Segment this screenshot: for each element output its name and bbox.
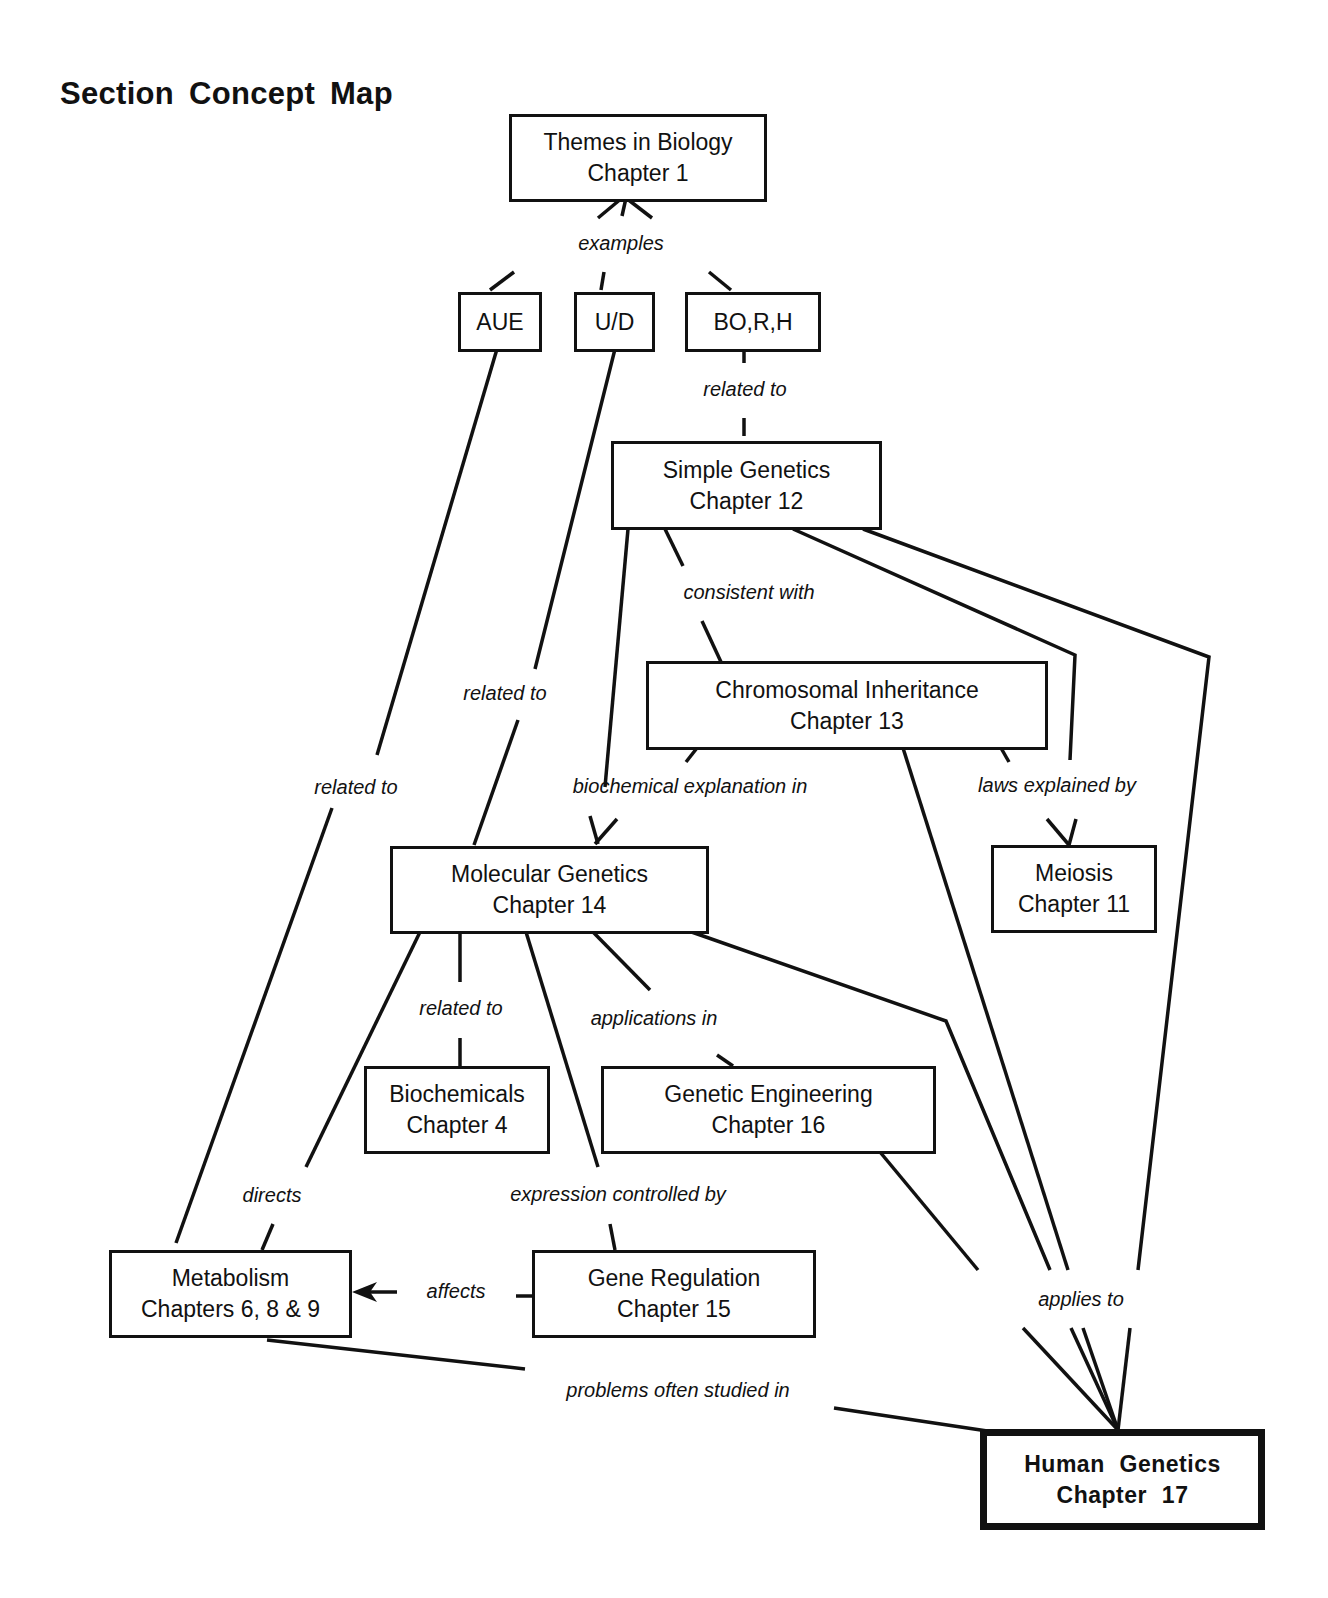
node-title: Molecular Genetics <box>451 859 648 890</box>
node-title: Gene Regulation <box>588 1263 761 1294</box>
node-title: Biochemicals <box>389 1079 525 1110</box>
node-chapter: Chapter 14 <box>493 890 607 921</box>
link-label-consistent-with: consistent with <box>683 581 814 604</box>
node-chromosomal-inheritance: Chromosomal Inheritance Chapter 13 <box>646 661 1048 750</box>
node-title: U/D <box>595 307 635 338</box>
node-molecular-genetics: Molecular Genetics Chapter 14 <box>390 846 709 934</box>
link-label-applies-to: applies to <box>1038 1288 1124 1311</box>
node-title: BO,R,H <box>713 307 792 338</box>
node-title: Chromosomal Inheritance <box>715 675 978 706</box>
node-chapter: Chapter 12 <box>690 486 804 517</box>
node-title: Genetic Engineering <box>664 1079 872 1110</box>
node-simple-genetics: Simple Genetics Chapter 12 <box>611 441 882 530</box>
link-label-applications-in: applications in <box>591 1007 718 1030</box>
node-title: Human Genetics <box>1024 1449 1221 1480</box>
node-chapter: Chapter 11 <box>1018 889 1130 920</box>
node-title: Simple Genetics <box>663 455 830 486</box>
node-biochemicals: Biochemicals Chapter 4 <box>364 1066 550 1154</box>
node-title: Themes in Biology <box>543 127 732 158</box>
node-title: Metabolism <box>172 1263 290 1294</box>
node-human-genetics: Human Genetics Chapter 17 <box>980 1429 1265 1530</box>
node-chapter: Chapter 4 <box>406 1110 507 1141</box>
link-label-expression-controlled-by: expression controlled by <box>510 1183 726 1206</box>
node-title: AUE <box>476 307 523 338</box>
link-label-related-to: related to <box>703 378 786 401</box>
node-chapter: Chapters 6, 8 & 9 <box>141 1294 320 1325</box>
link-label-directs: directs <box>243 1184 302 1207</box>
node-bo-r-h: BO,R,H <box>685 292 821 352</box>
link-label-biochemical-explanation-in: biochemical explanation in <box>573 775 808 798</box>
node-genetic-engineering: Genetic Engineering Chapter 16 <box>601 1066 936 1154</box>
node-aue: AUE <box>458 292 542 352</box>
node-chapter: Chapter 17 <box>1057 1480 1189 1511</box>
link-label-affects: affects <box>427 1280 486 1303</box>
link-label-laws-explained-by: laws explained by <box>978 774 1136 797</box>
link-label-related-to: related to <box>463 682 546 705</box>
node-meiosis: Meiosis Chapter 11 <box>991 845 1157 933</box>
node-chapter: Chapter 1 <box>587 158 688 189</box>
link-label-problems-often-studied-in: problems often studied in <box>566 1379 789 1402</box>
link-label-related-to: related to <box>314 776 397 799</box>
node-chapter: Chapter 16 <box>712 1110 826 1141</box>
node-ud: U/D <box>574 292 655 352</box>
node-gene-regulation: Gene Regulation Chapter 15 <box>532 1250 816 1338</box>
node-themes-in-biology: Themes in Biology Chapter 1 <box>509 114 767 202</box>
link-label-related-to: related to <box>419 997 502 1020</box>
node-title: Meiosis <box>1035 858 1113 889</box>
node-chapter: Chapter 15 <box>617 1294 731 1325</box>
node-metabolism: Metabolism Chapters 6, 8 & 9 <box>109 1250 352 1338</box>
node-chapter: Chapter 13 <box>790 706 904 737</box>
connector-lines <box>0 0 1328 1598</box>
link-label-examples: examples <box>578 232 664 255</box>
